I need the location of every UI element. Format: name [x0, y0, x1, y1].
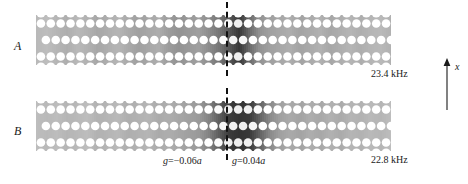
glide-value-left: −0.06: [174, 155, 197, 166]
dashed-vertical-line-a: [226, 2, 228, 76]
figure-container: A 23.4 kHz B 22.8 kHz g=−0.06a g=0.04a x: [0, 0, 468, 184]
glide-value-right: 0.04: [243, 155, 261, 166]
lattice-strip-b: [36, 97, 391, 155]
arrow-up-icon: [440, 58, 454, 110]
panel-label-b: B: [14, 125, 21, 137]
glide-unit-left: a: [197, 155, 202, 166]
lattice-svg-b: [36, 97, 391, 155]
lattice-svg-a: [36, 11, 391, 69]
dashed-vertical-line-b: [226, 88, 228, 160]
frequency-label-b: 22.8 kHz: [371, 155, 408, 165]
frequency-label-a: 23.4 kHz: [371, 69, 408, 79]
lattice-strip-a: [36, 11, 391, 69]
panel-label-a: A: [14, 40, 21, 52]
glide-annotation-left: g=−0.06a: [163, 156, 202, 166]
axis-label-x: x: [455, 62, 459, 72]
glide-annotation-right: g=0.04a: [232, 156, 265, 166]
glide-unit-right: a: [260, 155, 265, 166]
